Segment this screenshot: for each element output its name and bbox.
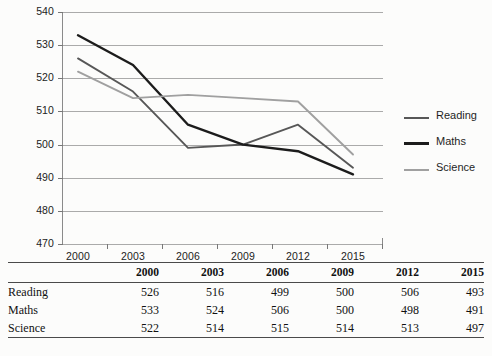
legend-label-science: Science xyxy=(436,161,475,173)
table-col-header-2009: 2009 xyxy=(289,263,354,283)
table-header-row: 200020032006200920122015 xyxy=(8,263,484,283)
series-line-maths xyxy=(78,35,353,174)
legend-item-reading: Reading xyxy=(404,108,492,134)
legend-swatch-reading xyxy=(404,117,429,119)
table-row: Reading526516499500506493 xyxy=(8,283,484,302)
table-row: Maths533524506500498491 xyxy=(8,301,484,319)
table-col-header-2012: 2012 xyxy=(354,263,419,283)
table-cell-maths-2003: 524 xyxy=(159,301,224,319)
chart-legend: Reading Maths Science xyxy=(404,108,492,186)
legend-label-reading: Reading xyxy=(436,109,477,121)
data-table-head: 200020032006200920122015 xyxy=(8,263,484,283)
table-cell-reading-2003: 516 xyxy=(159,283,224,302)
table-cell-maths-2006: 506 xyxy=(224,301,289,319)
table-corner-cell xyxy=(8,263,94,283)
table-cell-reading-2012: 506 xyxy=(354,283,419,302)
table-cell-science-2000: 522 xyxy=(94,319,159,338)
table-cell-science-2009: 514 xyxy=(289,319,354,338)
table-cell-maths-2009: 500 xyxy=(289,301,354,319)
table-row-label-science: Science xyxy=(8,319,94,338)
table-cell-reading-2015: 493 xyxy=(419,283,484,302)
table-col-header-2015: 2015 xyxy=(419,263,484,283)
table-cell-science-2006: 515 xyxy=(224,319,289,338)
table-cell-maths-2012: 498 xyxy=(354,301,419,319)
table-col-header-2006: 2006 xyxy=(224,263,289,283)
table-cell-reading-2006: 499 xyxy=(224,283,289,302)
table-row-label-maths: Maths xyxy=(8,301,94,319)
table-col-header-2003: 2003 xyxy=(159,263,224,283)
table-col-header-2000: 2000 xyxy=(94,263,159,283)
legend-item-maths: Maths xyxy=(404,134,492,160)
table-cell-science-2012: 513 xyxy=(354,319,419,338)
table-cell-maths-2015: 491 xyxy=(419,301,484,319)
legend-swatch-science xyxy=(404,169,429,171)
legend-label-maths: Maths xyxy=(436,135,466,147)
table-cell-reading-2000: 526 xyxy=(94,283,159,302)
data-table: 200020032006200920122015 Reading52651649… xyxy=(8,262,484,338)
table-cell-science-2015: 497 xyxy=(419,319,484,338)
table-row: Science522514515514513497 xyxy=(8,319,484,338)
table-cell-maths-2000: 533 xyxy=(94,301,159,319)
data-table-body: Reading526516499500506493Maths5335245065… xyxy=(8,283,484,338)
legend-item-science: Science xyxy=(404,160,492,186)
legend-swatch-maths xyxy=(404,142,429,145)
table-cell-reading-2009: 500 xyxy=(289,283,354,302)
table-cell-science-2003: 514 xyxy=(159,319,224,338)
data-table-wrapper: 200020032006200920122015 Reading52651649… xyxy=(8,262,484,338)
table-row-label-reading: Reading xyxy=(8,283,94,302)
chart-page: 540530520510500490480470 200020032006200… xyxy=(0,0,492,356)
series-line-reading xyxy=(78,58,353,167)
